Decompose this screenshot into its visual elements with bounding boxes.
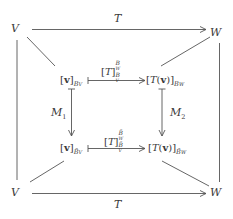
node-top-right-W: W [210, 27, 221, 38]
node-inner-top-right: [T(v)]BW [146, 75, 184, 88]
node-top-left-V: V [11, 23, 19, 34]
label-inner-top-matrix: [T]BWBV [101, 60, 120, 84]
label-M2: M2 [170, 107, 185, 121]
node-inner-top-left: [v]BV [60, 75, 82, 88]
diag-bottom-right [162, 161, 209, 186]
label-bottom-T: T [114, 199, 121, 210]
diag-bottom-left [30, 161, 64, 182]
label-inner-bottom-matrix: [T]B̃WB̃V [104, 130, 123, 154]
node-bottom-left-V: V [11, 187, 19, 198]
label-top-T: T [114, 13, 121, 24]
commutative-diagram: V W V W T T [v]BV [T(v)]BW [v]B̃V [T(v)]… [0, 0, 233, 219]
node-inner-bottom-right: [T(v)]B̃W [148, 143, 186, 156]
diagram-arrows [0, 0, 233, 219]
node-inner-bottom-left: [v]B̃V [60, 143, 82, 156]
label-M1: M1 [51, 107, 66, 121]
diag-top-right [161, 37, 210, 66]
node-bottom-right-W: W [210, 187, 221, 198]
diag-top-left [27, 37, 55, 66]
